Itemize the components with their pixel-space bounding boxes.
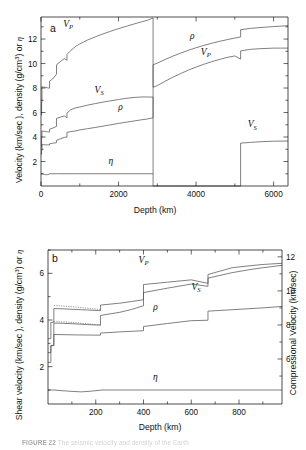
panel-b: 200400600800246681012 VPVSρη b Depth (km…	[13, 250, 298, 432]
curve-V_P_right_axis	[48, 265, 282, 362]
y-tick-label: 12	[28, 35, 38, 44]
y-tick-label: 6	[39, 269, 44, 278]
curve-label-V_S: VS	[95, 85, 105, 96]
curve-eta	[48, 390, 282, 392]
curve-label-V_S: VS	[191, 282, 201, 293]
x-tick-label: 4000	[187, 190, 206, 199]
y-tick-label: 4	[39, 316, 44, 325]
panel-a-letter: a	[50, 22, 56, 34]
panel-b-ticks	[48, 250, 282, 404]
panel-b-letter: b	[52, 252, 58, 264]
x-tick-label: 400	[137, 408, 151, 417]
x-tick-label: 2000	[109, 190, 128, 199]
curve-rho	[48, 306, 282, 352]
panel-a-yaxis-label: Velocity (km/sec ), density (g/cm3) or η	[13, 37, 24, 183]
curve-label-rho: ρ	[152, 302, 158, 312]
curve-label-V_P: VP	[139, 255, 149, 266]
panel-b-yaxis-label: Shear velocity (km/sec ), density (g/cm3…	[13, 250, 24, 421]
curve-V_S	[48, 263, 282, 338]
x-tick-label: 600	[184, 408, 198, 417]
curve-eta	[41, 174, 153, 175]
caption-label: FIGURE 22	[22, 439, 56, 446]
curve-V_S	[41, 97, 288, 186]
x-tick-label: 200	[89, 408, 103, 417]
x-tick-label: 800	[232, 408, 246, 417]
curve-label-V_S-inner: VS	[248, 119, 258, 130]
panel-b-xaxis-label: Depth (km)	[139, 422, 182, 432]
curve-label-V_P: VP	[63, 19, 73, 30]
y-tick-label: 2	[32, 158, 37, 167]
curve-label-eta: η	[108, 156, 113, 166]
curve-label-rho: ρ	[117, 102, 123, 112]
panel-a: 020004000600024681012 VPVSρηρVPVS a Dept…	[13, 17, 288, 215]
x-tick-label: 6000	[265, 190, 284, 199]
curve-label-rho-outer: ρ	[189, 31, 195, 41]
panel-b-curves	[48, 263, 282, 392]
y-tick-label: 10	[28, 60, 38, 69]
y-tick-label: 4	[32, 133, 37, 142]
panel-a-curves	[41, 18, 288, 186]
panel-a-curve-labels: VPVSρηρVPVS	[63, 19, 257, 166]
panel-a-xaxis-label: Depth (km)	[134, 205, 177, 215]
y-tick-label: 8	[32, 84, 37, 93]
curve-label-eta: η	[153, 372, 158, 382]
panel-b-yaxis-right-label: Compressional Velocity (km/sec)	[288, 271, 298, 396]
panel-a-ticks	[41, 17, 288, 186]
caption-line: FIGURE 22 The seismic velocity and densi…	[0, 436, 306, 446]
figure-canvas: 020004000600024681012 VPVSρηρVPVS a Dept…	[0, 0, 306, 450]
prem-figure: 020004000600024681012 VPVSρηρVPVS a Dept…	[0, 0, 306, 450]
y-tick-right-label: 12	[286, 253, 296, 262]
panel-a-axes	[41, 17, 288, 186]
panel-b-axes	[48, 250, 282, 404]
panel-b-frame	[48, 250, 282, 404]
figure-caption: FIGURE 22 The seismic velocity and densi…	[0, 436, 306, 450]
x-tick-label: 0	[39, 190, 44, 199]
caption-body: The seismic velocity and density of the …	[58, 439, 189, 446]
y-tick-label: 6	[32, 109, 37, 118]
y-tick-label: 2	[39, 363, 44, 372]
curve-V_P	[41, 18, 288, 115]
curve-label-V_P-outer: VP	[201, 47, 211, 58]
panel-b-curve-labels: VPVSρη	[139, 255, 202, 382]
panel-a-frame	[41, 17, 288, 186]
